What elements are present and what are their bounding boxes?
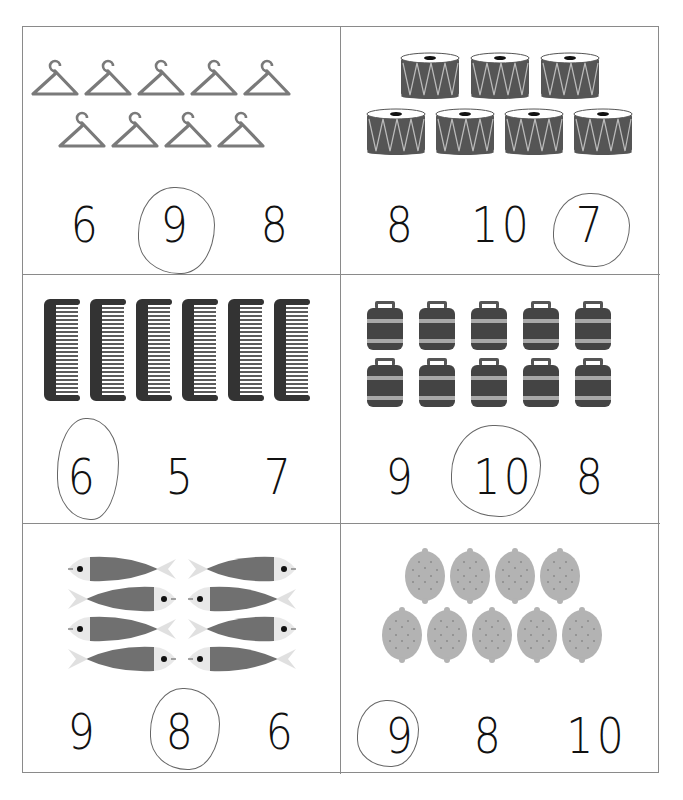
fish-group — [23, 524, 340, 684]
option-1[interactable]: 6 — [71, 195, 101, 255]
option-1[interactable]: 9 — [68, 702, 98, 762]
counting-worksheet-grid: 6 9 8 — [22, 26, 659, 773]
option-3[interactable]: 6 — [266, 702, 296, 762]
option-3[interactable]: 8 — [576, 447, 606, 507]
hanger-group — [23, 27, 340, 187]
cell-jars: 9 10 8 — [341, 275, 660, 524]
cell-drums: 8 10 7 — [341, 27, 660, 275]
answer-options: 9 10 8 — [341, 443, 660, 513]
option-1[interactable]: 8 — [386, 195, 416, 255]
option-2[interactable]: 10 — [473, 447, 534, 507]
option-1[interactable]: 9 — [386, 706, 416, 766]
answer-options: 6 9 8 — [23, 195, 340, 265]
option-1[interactable]: 6 — [68, 447, 98, 507]
option-2[interactable]: 8 — [474, 706, 504, 766]
answer-options: 6 5 7 — [23, 443, 340, 513]
cell-hangers: 6 9 8 — [23, 27, 341, 275]
option-3[interactable]: 7 — [576, 195, 606, 255]
lemon-group — [341, 524, 660, 684]
cropped-title-fragment — [20, 0, 220, 4]
option-2[interactable]: 5 — [166, 447, 196, 507]
answer-options: 8 10 7 — [341, 195, 660, 265]
cell-fish: 9 8 6 — [23, 524, 341, 774]
option-2[interactable]: 9 — [161, 195, 191, 255]
answer-options: 9 8 6 — [23, 692, 340, 762]
option-2[interactable]: 10 — [471, 195, 532, 255]
cell-combs: 6 5 7 — [23, 275, 341, 524]
option-2[interactable]: 8 — [166, 702, 196, 762]
jar-group — [341, 275, 660, 435]
cell-lemons: 9 8 10 — [341, 524, 660, 774]
answer-options: 9 8 10 — [341, 692, 660, 762]
option-3[interactable]: 8 — [261, 195, 291, 255]
drum-group — [341, 27, 660, 187]
comb-group — [23, 275, 340, 435]
option-1[interactable]: 9 — [386, 447, 416, 507]
option-3[interactable]: 10 — [566, 706, 627, 766]
option-3[interactable]: 7 — [264, 447, 294, 507]
